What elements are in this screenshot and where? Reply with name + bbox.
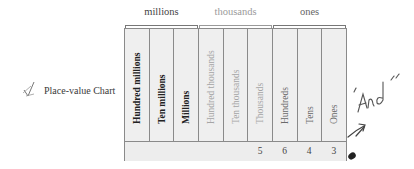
value-cell — [223, 142, 248, 161]
column-header: Millions — [174, 29, 199, 141]
column-header: Hundred millions — [125, 29, 150, 141]
column-header: Ten millions — [150, 29, 175, 141]
value-cell — [150, 142, 175, 161]
values-row: 5 6 4 3 — [125, 141, 346, 161]
group-label: millions — [124, 6, 199, 18]
column-label: Ones — [329, 104, 340, 124]
value-cell — [199, 142, 224, 161]
column-header: Ten thousands — [224, 29, 249, 141]
handwritten-arrow-icon — [348, 124, 365, 137]
column-label: Hundred millions — [131, 53, 142, 124]
column-label: Thousands — [255, 83, 266, 124]
column-header: Hundred thousands — [199, 29, 224, 141]
header-row: Hundred millions Ten millions Millions H… — [125, 29, 346, 141]
value-cell: 4 — [297, 142, 322, 161]
handwritten-text-and — [354, 74, 399, 112]
column-header: Hundreds — [273, 29, 298, 141]
value-cell — [125, 142, 150, 161]
column-header: Ones — [322, 29, 346, 141]
group-label: ones — [272, 6, 347, 18]
group-ones: ones — [272, 6, 347, 28]
column-label: Millions — [181, 91, 192, 124]
ink-dot-icon — [347, 151, 357, 161]
value-cell — [174, 142, 199, 161]
column-label: Hundred thousands — [205, 50, 216, 124]
column-label: Hundreds — [279, 87, 290, 124]
group-label: thousands — [198, 6, 273, 18]
place-value-table: Hundred millions Ten millions Millions H… — [124, 28, 347, 161]
chart-caption: Place-value Chart — [44, 85, 115, 96]
value-cell: 6 — [272, 142, 297, 161]
column-header: Thousands — [248, 29, 273, 141]
value-cell: 3 — [322, 142, 347, 161]
group-millions: millions — [124, 6, 199, 28]
group-thousands: thousands — [198, 6, 273, 28]
column-header: Tens — [298, 29, 323, 141]
column-label: Ten thousands — [230, 70, 241, 124]
column-label: Ten millions — [156, 74, 167, 124]
column-label: Tens — [304, 106, 315, 124]
handwritten-check-icon — [22, 81, 36, 97]
value-cell: 5 — [248, 142, 273, 161]
handwritten-and-annotation — [346, 60, 414, 165]
